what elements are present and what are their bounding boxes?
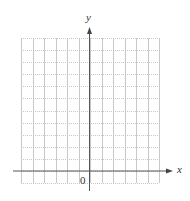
vertical-grid-lines — [22, 38, 160, 183]
x-axis-label: x — [177, 164, 182, 175]
y-axis-label: y — [86, 12, 91, 23]
origin-label: 0 — [80, 175, 86, 186]
x-axis-arrow-icon — [166, 169, 173, 174]
coordinate-grid — [0, 0, 190, 201]
y-axis — [87, 27, 92, 191]
y-axis-arrow-icon — [87, 27, 92, 34]
